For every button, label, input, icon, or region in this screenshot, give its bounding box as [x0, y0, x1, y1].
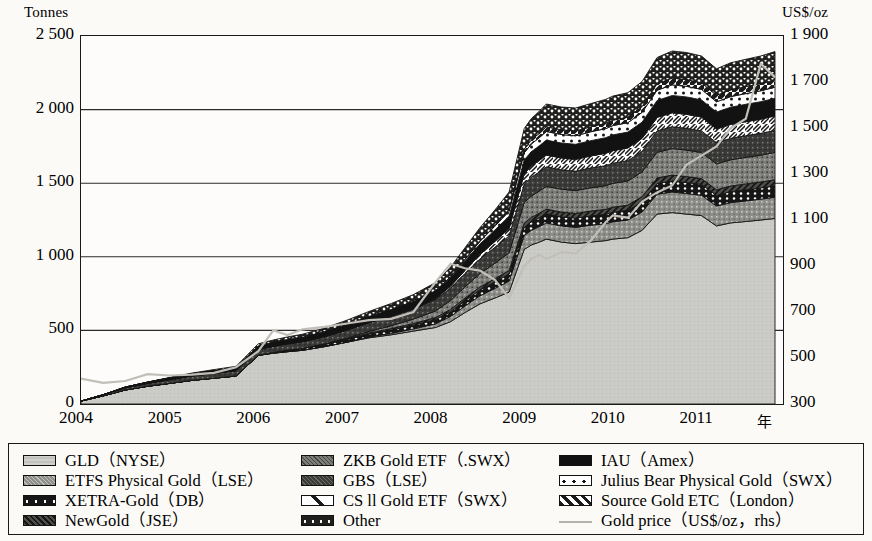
x-tick-2006: 2006: [236, 408, 270, 428]
left-tick-2500: 2 500: [36, 24, 74, 44]
legend-swatch-thin-line-icon: [559, 521, 592, 524]
x-tick-2010: 2010: [591, 408, 625, 428]
left-tick-1000: 1 000: [36, 245, 74, 265]
legend-label: Julius Bear Physical Gold（SWX）: [601, 471, 843, 490]
left-axis-title: Tonnes: [24, 4, 68, 21]
x-tick-2008: 2008: [414, 408, 448, 428]
right-tick-300: 300: [790, 392, 816, 412]
legend-swatch-diagonal-dark-icon: [559, 495, 592, 506]
right-tick-900: 900: [790, 254, 816, 274]
legend-item-col1-3[interactable]: NewGold（JSE）: [23, 511, 264, 530]
right-tick-700: 700: [790, 300, 816, 320]
legend-label: Source Gold ETC（London）: [601, 491, 805, 510]
legend-item-col3-3[interactable]: Gold price（US$/oz，rhs）: [559, 511, 843, 530]
legend-swatch-white-diagonal-icon: [301, 495, 334, 506]
legend-label: GLD（NYSE）: [65, 451, 176, 470]
legend-label: NewGold（JSE）: [65, 511, 189, 530]
x-tick-2007: 2007: [325, 408, 359, 428]
legend-swatch-dark-dots-icon: [301, 515, 334, 526]
legend-swatch-white-dots-icon: [559, 475, 592, 486]
legend-item-col2-1[interactable]: GBS（LSE）: [301, 471, 521, 490]
chart-legend: GLD（NYSE）ETFS Physical Gold（LSE）XETRA-Go…: [8, 443, 864, 535]
right-tick-1300: 1 300: [790, 162, 828, 182]
legend-item-col2-0[interactable]: ZKB Gold ETF（.SWX）: [301, 451, 521, 470]
legend-item-col1-0[interactable]: GLD（NYSE）: [23, 451, 264, 470]
right-tick-1500: 1 500: [790, 116, 828, 136]
legend-label: Gold price（US$/oz，rhs）: [601, 511, 792, 530]
legend-item-col2-3[interactable]: Other: [301, 511, 521, 530]
legend-item-col3-2[interactable]: Source Gold ETC（London）: [559, 491, 843, 510]
right-axis-title: US$/oz: [782, 4, 828, 21]
x-tick-2011: 2011: [679, 408, 712, 428]
legend-item-col1-1[interactable]: ETFS Physical Gold（LSE）: [23, 471, 264, 490]
legend-label: IAU（Amex）: [601, 451, 705, 470]
legend-item-col3-1[interactable]: Julius Bear Physical Gold（SWX）: [559, 471, 843, 490]
right-tick-1700: 1 700: [790, 70, 828, 90]
chart-stacked-areas: [81, 51, 775, 404]
legend-label: ZKB Gold ETF（.SWX）: [343, 451, 521, 470]
legend-item-col3-0[interactable]: IAU（Amex）: [559, 451, 843, 470]
x-tick-2004: 2004: [59, 408, 93, 428]
legend-label: Other: [343, 511, 381, 530]
right-tick-500: 500: [790, 346, 816, 366]
legend-column-1: GLD（NYSE）ETFS Physical Gold（LSE）XETRA-Go…: [23, 451, 264, 531]
legend-label: GBS（LSE）: [343, 471, 438, 490]
legend-swatch-light-gray-icon: [23, 455, 56, 466]
x-tick-2005: 2005: [148, 408, 182, 428]
legend-swatch-gray-speckle-icon: [301, 455, 334, 466]
legend-swatch-mid-gray-speckle-icon: [23, 475, 56, 486]
left-tick-1500: 1 500: [36, 171, 74, 191]
left-tick-500: 500: [49, 318, 75, 338]
legend-label: XETRA-Gold（DB）: [65, 491, 215, 510]
legend-item-col1-2[interactable]: XETRA-Gold（DB）: [23, 491, 264, 510]
x-tick-2009: 2009: [502, 408, 536, 428]
legend-label: CS ll Gold ETF（SWX）: [343, 491, 518, 510]
legend-swatch-dark-speckle-icon: [301, 475, 334, 486]
left-tick-2000: 2 000: [36, 98, 74, 118]
right-tick-1900: 1 900: [790, 24, 828, 44]
stacked-area-chart: [81, 36, 783, 404]
legend-swatch-solid-black-icon: [559, 455, 592, 466]
right-tick-1100: 1 100: [790, 208, 828, 228]
legend-item-col2-2[interactable]: CS ll Gold ETF（SWX）: [301, 491, 521, 510]
legend-column-3: IAU（Amex）Julius Bear Physical Gold（SWX）S…: [559, 451, 843, 531]
chart-plot-area: [80, 35, 784, 405]
x-axis-unit-label: 年: [757, 410, 772, 431]
legend-swatch-dark-hatch-icon: [23, 515, 56, 526]
legend-column-2: ZKB Gold ETF（.SWX）GBS（LSE）CS ll Gold ETF…: [301, 451, 521, 531]
legend-swatch-black-dots-icon: [23, 495, 56, 506]
legend-label: ETFS Physical Gold（LSE）: [65, 471, 264, 490]
